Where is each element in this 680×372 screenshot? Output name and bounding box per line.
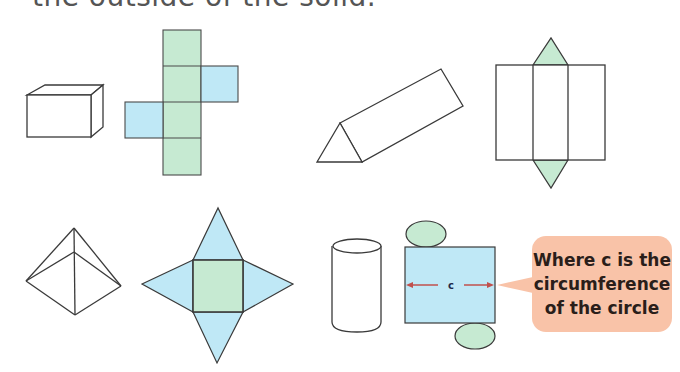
- cylinder-solid: [332, 239, 381, 332]
- square-pyramid-solid: [26, 228, 121, 315]
- triangular-prism-net: [496, 38, 605, 188]
- circumference-label: c: [448, 280, 454, 291]
- callout-line-1: Where c is the: [533, 248, 671, 272]
- callout-line-2: circumference: [534, 272, 671, 296]
- callout-line-3: of the circle: [545, 296, 659, 320]
- cube-net: [125, 30, 238, 175]
- circumference-callout: Where c is the circumference of the circ…: [532, 236, 672, 332]
- square-pyramid-net: [142, 208, 293, 363]
- triangular-prism-solid: [317, 69, 463, 162]
- cube-solid: [27, 85, 103, 137]
- callout-pointer: [497, 277, 533, 293]
